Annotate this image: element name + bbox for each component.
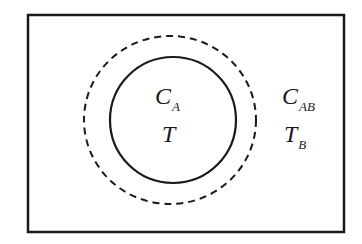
inner-temperature-label: T [162, 122, 175, 146]
outer-temperature-label: TB [284, 122, 306, 150]
outer-temperature-subscript: B [298, 137, 306, 152]
solid-particle-circle [110, 57, 236, 183]
outer-concentration-label: CAB [282, 84, 315, 112]
inner-concentration-label: CA [155, 84, 180, 112]
outer-concentration-subscript: AB [299, 99, 315, 114]
inner-concentration-subscript: A [172, 99, 180, 114]
diagram-canvas [0, 0, 362, 244]
